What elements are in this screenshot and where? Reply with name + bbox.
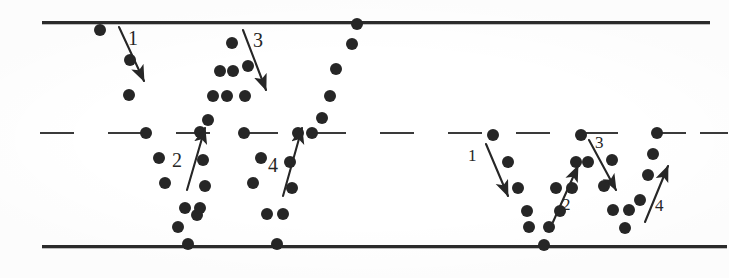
bottom-boundary-line	[42, 245, 727, 248]
center-line-dash	[108, 132, 144, 134]
arrow-2-right-label: 2	[562, 196, 571, 213]
center-line-dash	[516, 132, 550, 134]
data-dot	[292, 127, 304, 139]
data-dot	[512, 182, 524, 194]
data-dot	[271, 238, 283, 250]
data-dot	[598, 180, 610, 192]
data-dot	[226, 37, 238, 49]
data-dot	[140, 127, 152, 139]
data-dot	[202, 114, 214, 126]
data-dot	[194, 202, 206, 214]
data-dot	[159, 177, 171, 189]
data-dot	[199, 180, 211, 192]
data-dot	[523, 221, 535, 233]
data-dot	[651, 127, 663, 139]
arrow-1-left-label: 1	[128, 28, 138, 48]
data-dot	[221, 90, 233, 102]
data-dot	[207, 90, 219, 102]
data-dot	[619, 222, 631, 234]
data-dot	[261, 208, 273, 220]
data-dot	[239, 90, 251, 102]
data-dot	[316, 112, 328, 124]
center-line-dash	[700, 132, 728, 134]
center-line-dash	[448, 132, 482, 134]
arrow-4-left-label: 4	[268, 155, 278, 175]
data-dot	[179, 202, 191, 214]
arrow-1-right	[486, 144, 508, 196]
data-dot	[124, 54, 136, 66]
paper-background	[0, 0, 729, 278]
center-line-dash	[40, 132, 74, 134]
arrow-1-right-label: 1	[468, 147, 477, 164]
data-dot	[123, 89, 135, 101]
data-dot	[330, 63, 342, 75]
data-dot	[502, 156, 514, 168]
data-dot	[346, 38, 358, 50]
data-dot	[521, 205, 533, 217]
data-dot	[543, 221, 555, 233]
data-dot	[550, 182, 562, 194]
data-dot	[566, 182, 578, 194]
data-dot	[487, 129, 499, 141]
data-dot	[227, 65, 239, 77]
data-dot	[172, 221, 184, 233]
data-dot	[197, 154, 209, 166]
data-dot	[607, 204, 619, 216]
center-line-dash	[380, 132, 414, 134]
data-dot	[606, 154, 618, 166]
top-boundary-line	[42, 21, 710, 24]
data-dot	[642, 169, 654, 181]
center-dashed-line	[0, 132, 729, 134]
data-dot	[538, 239, 550, 251]
data-dot	[277, 208, 289, 220]
arrow-4-right-label: 4	[655, 197, 664, 214]
data-dot	[324, 90, 336, 102]
data-dot	[284, 156, 296, 168]
data-dot	[214, 65, 226, 77]
arrow-3-right-label: 3	[595, 134, 604, 151]
data-dot	[94, 24, 106, 36]
arrow-3-left-label: 3	[253, 30, 263, 50]
data-dot	[575, 129, 587, 141]
data-dot	[647, 148, 659, 160]
data-dot	[623, 204, 635, 216]
data-dot	[582, 156, 594, 168]
data-dot	[247, 177, 259, 189]
data-dot	[242, 60, 254, 72]
arrow-layer	[0, 0, 729, 278]
data-dot	[634, 194, 646, 206]
trajectory-figure: 12341234	[0, 0, 729, 278]
arrow-2-left-label: 2	[172, 150, 182, 170]
data-dot	[351, 18, 363, 30]
data-dot	[255, 152, 267, 164]
data-dot	[286, 182, 298, 194]
data-dot	[194, 126, 206, 138]
data-dot	[570, 156, 582, 168]
data-dot	[153, 152, 165, 164]
data-dot	[238, 127, 250, 139]
data-dot	[306, 127, 318, 139]
data-dot	[182, 238, 194, 250]
